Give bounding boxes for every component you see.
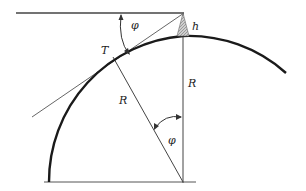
horizon-dip-diagram: φ h T R R φ xyxy=(0,0,306,191)
radius-line-to-T xyxy=(113,57,183,182)
label-phi-center: φ xyxy=(168,134,176,147)
arrowhead-center-right xyxy=(176,114,182,120)
label-T: T xyxy=(101,44,110,57)
label-h: h xyxy=(192,20,199,33)
label-phi-top: φ xyxy=(131,19,139,32)
arrowhead-top-up xyxy=(119,14,124,20)
earth-surface-arc xyxy=(49,36,286,182)
angle-arc-top xyxy=(120,15,129,54)
label-R-vertical: R xyxy=(187,77,196,90)
label-R-radius: R xyxy=(118,94,127,107)
